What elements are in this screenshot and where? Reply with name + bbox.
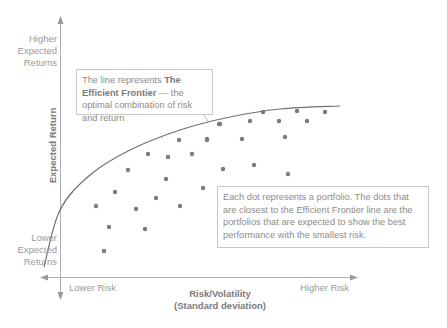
x-axis-title: Risk/Volatility (Standard deviation): [150, 288, 290, 312]
portfolio-dot: [205, 137, 209, 141]
frontier-callout-prefix: The line represents: [82, 75, 164, 85]
portfolio-dot: [295, 109, 299, 113]
portfolio-dot: [166, 155, 170, 159]
portfolio-dot: [164, 177, 168, 181]
portfolio-dot: [323, 110, 327, 114]
portfolio-dot: [143, 227, 147, 231]
frontier-callout: The line represents The Efficient Fronti…: [76, 69, 213, 115]
portfolio-dot: [113, 190, 117, 194]
portfolio-dot: [146, 152, 150, 156]
portfolio-dot: [201, 186, 205, 190]
portfolio-dot: [283, 135, 287, 139]
portfolio-dot: [102, 249, 106, 253]
x-axis-left-arrow-icon: [40, 275, 48, 281]
y-axis-down-arrow-icon: [58, 292, 64, 300]
callout-pointer: [203, 114, 208, 121]
portfolio-dot: [94, 204, 98, 208]
efficient-frontier-chart: [0, 0, 447, 328]
y-low-label: Lower Expected Returns: [3, 232, 57, 268]
portfolio-dot: [261, 110, 265, 114]
y-axis-up-arrow-icon: [58, 16, 64, 24]
portfolio-dot: [154, 196, 158, 200]
portfolio-dot: [221, 167, 225, 171]
portfolio-dot: [134, 207, 138, 211]
portfolio-dot: [252, 163, 256, 167]
y-high-label: Higher Expected Returns: [3, 33, 57, 69]
portfolio-dot: [190, 152, 194, 156]
x-high-label: Higher Risk: [300, 282, 349, 293]
portfolio-dot: [107, 225, 111, 229]
portfolio-dot: [177, 138, 181, 142]
portfolio-dot: [126, 168, 130, 172]
axes: [40, 16, 358, 300]
x-axis-title-line1: Risk/Volatility: [150, 288, 290, 300]
x-axis-title-line2: (Standard deviation): [150, 300, 290, 312]
y-axis-title: Expected Return: [47, 86, 58, 206]
x-low-label: Lower Risk: [69, 282, 116, 293]
portfolio-dot: [286, 172, 290, 176]
portfolio-dot: [178, 204, 182, 208]
portfolio-dot: [277, 119, 281, 123]
portfolio-dot: [248, 119, 252, 123]
dots-callout: Each dot represents a portfolio. The dot…: [217, 186, 429, 248]
portfolio-dot: [240, 137, 244, 141]
x-axis-right-arrow-icon: [350, 275, 358, 281]
portfolio-dot: [305, 119, 309, 123]
portfolio-dot: [218, 122, 222, 126]
